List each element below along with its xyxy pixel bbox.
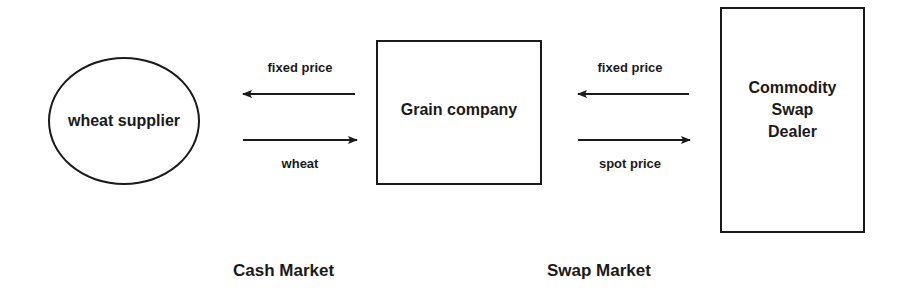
dealer-label-line-3: Dealer — [749, 121, 837, 143]
swap-spot-price-label: spot price — [580, 156, 680, 171]
swap-market-label: Swap Market — [547, 261, 651, 281]
swap-diagram: wheat supplier Grain company Commodity S… — [0, 0, 912, 303]
cash-market-label: Cash Market — [233, 261, 334, 281]
dealer-label-line-1: Commodity — [749, 77, 837, 99]
commodity-swap-dealer-node: Commodity Swap Dealer — [720, 7, 865, 233]
swap-fixed-price-label: fixed price — [580, 60, 680, 75]
dealer-label-line-2: Swap — [749, 99, 837, 121]
wheat-supplier-label: wheat supplier — [68, 110, 180, 132]
cash-fixed-price-label: fixed price — [250, 60, 350, 75]
grain-company-node: Grain company — [376, 40, 542, 185]
grain-company-label: Grain company — [401, 99, 517, 121]
wheat-supplier-node: wheat supplier — [48, 57, 200, 185]
cash-wheat-label: wheat — [250, 156, 350, 171]
